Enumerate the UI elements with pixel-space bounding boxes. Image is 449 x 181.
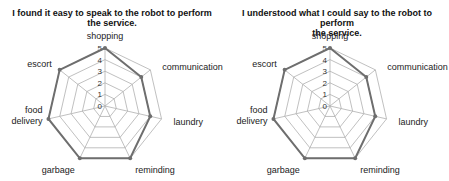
category-label: garbage xyxy=(267,165,300,175)
data-point xyxy=(271,117,275,121)
tick-label: 2 xyxy=(98,79,103,88)
category-label: escort xyxy=(252,59,277,69)
data-point xyxy=(46,117,50,121)
category-label: food xyxy=(25,105,43,115)
data-point xyxy=(103,46,107,50)
tick-label: 1 xyxy=(98,90,103,99)
category-label: shopping xyxy=(312,31,349,41)
category-label: delivery xyxy=(236,116,268,126)
tick-label: 1 xyxy=(323,90,328,99)
grid-spoke xyxy=(80,106,105,158)
category-label: garbage xyxy=(42,165,75,175)
data-point xyxy=(373,114,377,118)
tick-label: 0 xyxy=(323,102,328,111)
grid-spoke xyxy=(105,106,130,158)
data-point xyxy=(353,156,357,160)
chart-panel-left: I found it easy to speak to the robot to… xyxy=(0,0,224,181)
category-label: communication xyxy=(387,62,448,72)
data-point xyxy=(283,68,287,72)
grid-spoke xyxy=(305,106,330,158)
category-label: communication xyxy=(162,62,223,72)
category-label: delivery xyxy=(11,116,43,126)
category-label: shopping xyxy=(87,31,124,41)
data-point xyxy=(303,156,307,160)
chart-panel-right: I understood what I could say to the rob… xyxy=(225,0,449,181)
data-point xyxy=(78,156,82,160)
tick-label: 2 xyxy=(323,79,328,88)
category-label: laundry xyxy=(399,117,429,127)
radar-chart: 012345shoppingcommunicationlaundryremind… xyxy=(225,0,449,181)
data-point xyxy=(148,114,152,118)
tick-label: 3 xyxy=(98,67,103,76)
tick-label: 4 xyxy=(98,56,103,65)
tick-label: 0 xyxy=(98,102,103,111)
category-label: reminding xyxy=(135,165,175,175)
tick-label: 4 xyxy=(323,56,328,65)
grid-spoke xyxy=(330,106,355,158)
radar-chart: 012345shoppingcommunicationlaundryremind… xyxy=(0,0,224,181)
data-point xyxy=(139,75,143,79)
data-point xyxy=(328,46,332,50)
data-point xyxy=(58,68,62,72)
category-label: laundry xyxy=(174,117,204,127)
tick-label: 3 xyxy=(323,67,328,76)
category-label: reminding xyxy=(360,165,400,175)
category-label: food xyxy=(250,105,268,115)
category-label: escort xyxy=(27,59,52,69)
data-point xyxy=(364,75,368,79)
data-point xyxy=(128,156,132,160)
